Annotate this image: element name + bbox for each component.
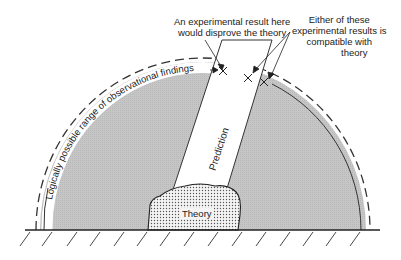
- compatible-line-4: theory: [292, 47, 387, 58]
- compatible-line-3: compatible with: [292, 36, 387, 47]
- ground-hatching: [20, 232, 360, 246]
- disprove-annotation: An experimental result here would dispro…: [174, 16, 290, 38]
- theory-label: Theory: [180, 208, 214, 219]
- disprove-line-1: An experimental result here: [174, 16, 290, 27]
- compatible-line-2: experimental results is: [292, 25, 387, 36]
- disprove-line-2: would disprove the theory: [174, 27, 290, 38]
- compatible-annotation: Either of these experimental results is …: [292, 14, 387, 58]
- compatible-line-1: Either of these: [292, 14, 387, 25]
